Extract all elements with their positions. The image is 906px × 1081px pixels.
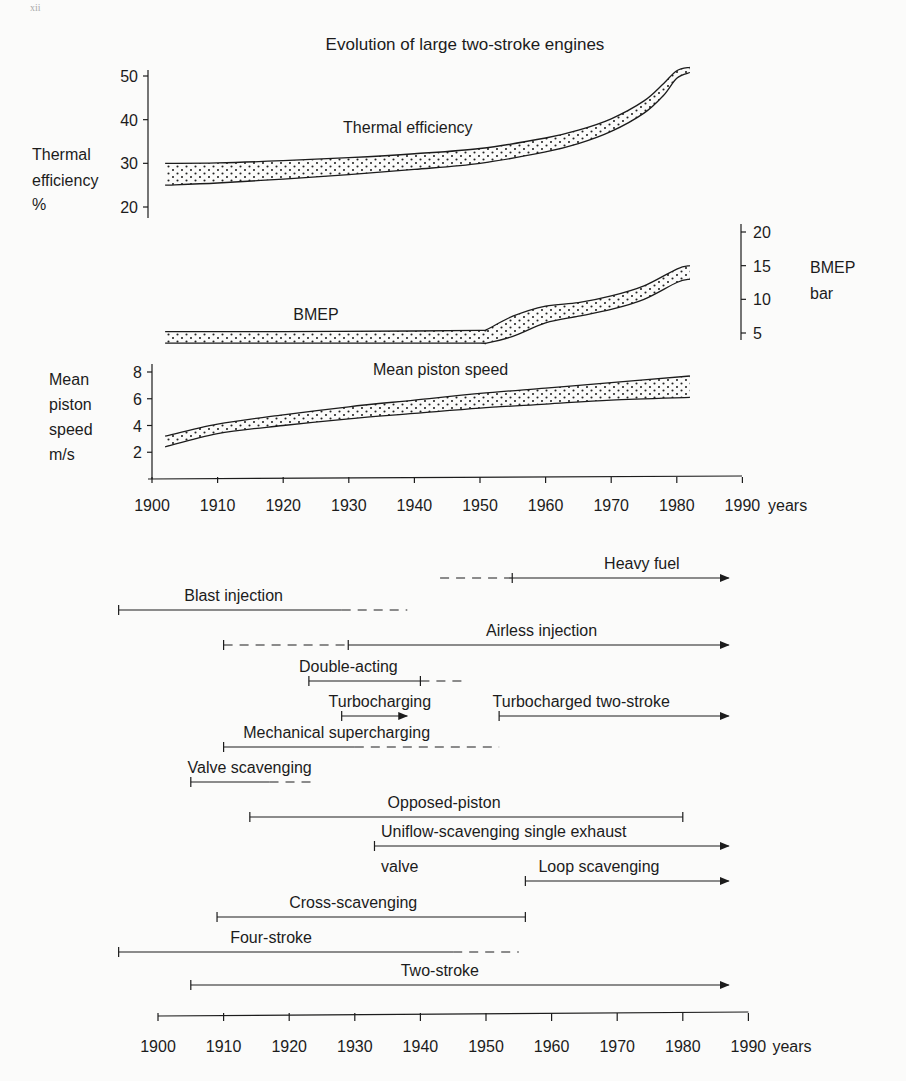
x-tick-label: 1990 [731, 1038, 767, 1055]
y-axis-2: 5101520BMEPbar [741, 224, 855, 342]
timeline-label-continued: valve [381, 858, 418, 875]
timeline-label: Turbocharging [329, 693, 432, 710]
timeline-label: Two-stroke [401, 962, 479, 979]
timeline-row-heavy-fuel: Heavy fuel [440, 555, 729, 583]
timeline-label: Valve scavenging [188, 759, 312, 776]
y-axis-label: piston [49, 396, 92, 413]
series-mean-piston-speed: Mean piston speed [165, 361, 690, 447]
y-axis-label: speed [49, 421, 93, 438]
y-tick-label: 30 [120, 155, 138, 172]
x-tick-label: 1990 [725, 497, 761, 514]
timeline-label: Uniflow-scavenging single exhaust [381, 823, 627, 840]
y-tick-label: 2 [133, 444, 142, 461]
y-axis-label: Mean [49, 371, 89, 388]
timeline-row-double-acting: Double-acting [299, 658, 466, 686]
x-axis-lower: 1900191019201930194019501960197019801990… [140, 1012, 811, 1055]
series-thermal-efficiency: Thermal efficiency [165, 67, 690, 185]
y-tick-label: 4 [133, 418, 142, 435]
y-axis-label: efficiency [32, 172, 98, 189]
timeline-row-two-stroke: Two-stroke [191, 962, 729, 990]
x-tick-label: 1900 [140, 1038, 176, 1055]
timeline-row-turbocharging: Turbocharging [329, 693, 432, 721]
timeline-row-valve-scavenging: Valve scavenging [188, 759, 316, 787]
y-tick-label: 6 [133, 391, 142, 408]
y-axis-1: 20304050Thermalefficiency% [32, 68, 148, 218]
y-axis-3: 2468Meanpistonspeedm/s [49, 364, 152, 479]
y-axis-label: BMEP [810, 259, 855, 276]
y-tick-label: 5 [753, 325, 762, 342]
timeline-row-mechanical-supercharging: Mechanical supercharging [224, 724, 500, 752]
x-tick-label: 1940 [397, 497, 433, 514]
timeline-label: Heavy fuel [604, 555, 680, 572]
timeline-label: Opposed-piston [388, 794, 501, 811]
y-axis-label: m/s [49, 446, 75, 463]
x-tick-label: 1980 [659, 497, 695, 514]
y-tick-label: 20 [120, 199, 138, 216]
y-tick-label: 8 [133, 364, 142, 381]
x-tick-label: 1930 [337, 1038, 373, 1055]
series-label: BMEP [293, 306, 338, 323]
x-tick-label: 1910 [206, 1038, 242, 1055]
x-tick-label: 1940 [403, 1038, 439, 1055]
series-label: Thermal efficiency [343, 119, 473, 136]
performance-chart: Evolution of large two-stroke enginesThe… [32, 35, 855, 514]
x-axis-label: years [772, 1038, 811, 1055]
timeline-label: Airless injection [486, 622, 597, 639]
timeline-row-turbocharged-two-stroke: Turbocharged two-stroke [493, 693, 729, 721]
page-number: xii [30, 2, 41, 13]
timeline-label: Four-stroke [230, 929, 312, 946]
timeline-label: Cross-scavenging [289, 894, 417, 911]
y-tick-label: 10 [753, 291, 771, 308]
y-axis-label: bar [810, 285, 834, 302]
timeline-row-cross-scavenging: Cross-scavenging [217, 894, 525, 922]
x-tick-label: 1930 [331, 497, 367, 514]
x-tick-label: 1900 [134, 497, 170, 514]
y-tick-label: 15 [753, 258, 771, 275]
engine-evolution-figure: Evolution of large two-stroke enginesThe… [0, 0, 906, 1081]
y-axis-label: % [32, 196, 46, 213]
timeline-label: Mechanical supercharging [243, 724, 430, 741]
series-bmep: BMEP [165, 266, 690, 344]
timeline-label: Double-acting [299, 658, 398, 675]
x-tick-label: 1970 [599, 1038, 635, 1055]
timeline-label: Turbocharged two-stroke [493, 693, 670, 710]
x-axis-label: years [768, 497, 807, 514]
y-tick-label: 20 [753, 224, 771, 241]
series-label: Mean piston speed [373, 361, 508, 378]
timeline-row-opposed-piston: Opposed-piston [250, 794, 683, 822]
timeline-row-airless-injection: Airless injection [224, 622, 729, 650]
timeline-row-loop-scavenging: Loop scavenging [525, 858, 728, 886]
x-axis-upper: 1900191019201930194019501960197019801990… [134, 476, 807, 514]
x-tick-label: 1920 [265, 497, 301, 514]
y-tick-label: 40 [120, 112, 138, 129]
x-tick-label: 1960 [528, 497, 564, 514]
x-tick-label: 1960 [534, 1038, 570, 1055]
chart-title: Evolution of large two-stroke engines [326, 35, 605, 54]
x-tick-label: 1950 [462, 497, 498, 514]
x-tick-label: 1910 [200, 497, 236, 514]
x-tick-label: 1920 [271, 1038, 307, 1055]
timeline-label: Loop scavenging [538, 858, 659, 875]
technology-timeline: Heavy fuelBlast injectionAirless injecti… [119, 555, 812, 1055]
timeline-row-four-stroke: Four-stroke [119, 929, 519, 957]
band-upper-edge [165, 67, 690, 163]
x-tick-label: 1980 [665, 1038, 701, 1055]
timeline-label: Blast injection [184, 587, 283, 604]
x-tick-label: 1970 [593, 497, 629, 514]
x-tick-label: 1950 [468, 1038, 504, 1055]
band-fill [165, 376, 690, 447]
y-tick-label: 50 [120, 68, 138, 85]
timeline-row-blast-injection: Blast injection [119, 587, 408, 615]
y-axis-label: Thermal [32, 146, 91, 163]
